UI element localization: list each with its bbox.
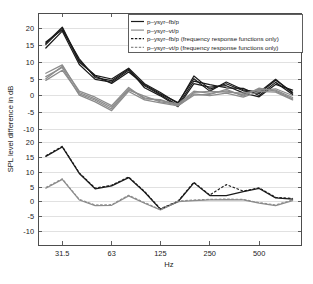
y-tick-label-lower-3: 5 [30,183,34,192]
legend-label-3: p–ysyr–vt/p (frequency response function… [147,44,278,51]
y-tick-label-lower-6: -10 [23,227,34,236]
y-tick-label-upper-5: -5 [27,108,34,117]
chart-legend[interactable]: p–ysyr–fb/pp–ysyr–vt/pp–ysyr–fb/p (frequ… [128,14,302,52]
legend-label-0: p–ysyr–fb/p [147,18,180,25]
x-tick-label-4: 500 [253,249,265,258]
legend-label-1: p–ysyr–vt/p [147,27,179,34]
x-tick-label-0: 31.5 [55,249,69,258]
x-tick-label-3: 250 [204,249,216,258]
y-tick-label-upper-0: 20 [26,24,34,33]
y-tick-label-upper-6: -10 [23,125,34,134]
y-tick-label-lower-0: 20 [26,138,34,147]
y-tick-label-lower-5: -5 [27,212,34,221]
y-axis-label: SPL level difference in dB [6,86,15,173]
chart-figure: 20151050-5-1020151050-5-1031.56312525050… [0,0,313,284]
y-tick-label-upper-2: 10 [26,58,34,67]
legend-label-2: p–ysyr–fb/p (frequency response function… [147,35,279,42]
x-tick-label-2: 125 [154,249,166,258]
y-tick-label-upper-3: 5 [30,75,34,84]
y-tick-label-lower-1: 15 [26,153,34,162]
x-tick-label-1: 63 [108,249,116,258]
y-tick-label-upper-4: 0 [30,91,34,100]
x-axis-label: Hz [164,260,173,269]
plot-canvas: 20151050-5-1020151050-5-1031.56312525050… [0,0,313,284]
y-tick-label-lower-4: 0 [30,197,34,206]
y-tick-label-lower-2: 10 [26,168,34,177]
y-tick-label-upper-1: 15 [26,41,34,50]
